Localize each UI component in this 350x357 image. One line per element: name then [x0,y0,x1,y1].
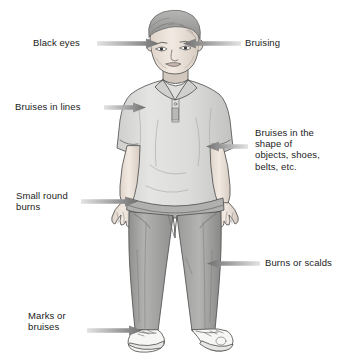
callout-label-black-eyes: Black eyes [33,37,80,48]
callout-arrow-bruises-in-lines [104,102,146,113]
callout-arrow-burns-or-scalds [207,258,260,269]
callout-label-marks-or-bruises: Marks or bruises [28,310,66,332]
callout-label-bruising: Bruising [245,37,280,48]
callout-arrow-black-eyes [97,38,159,49]
callout-label-burns-or-scalds: Burns or scalds [265,257,332,268]
callout-arrow-bruising [183,38,241,49]
callout-arrow-marks-or-bruises [87,325,142,336]
callout-arrow-small-round-burns [81,196,138,207]
callout-label-small-round-burns: Small round burns [16,190,68,212]
child-figure-illustration [0,0,350,357]
callout-label-bruises-in-lines: Bruises in lines [15,101,81,112]
abuse-signs-diagram: Black eyes Bruising Br [0,0,350,357]
callout-arrow-bruises-shape-of-objects [206,141,248,152]
callout-label-bruises-shape-of-objects: Bruises in the shape of objects, shoes, … [255,127,320,172]
